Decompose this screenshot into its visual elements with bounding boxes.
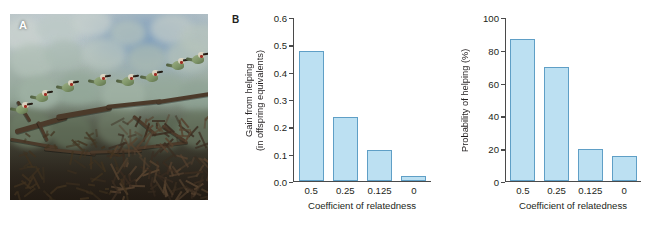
panel-b-right-chart: Probability of helping (%) 020406080100 …: [448, 0, 648, 229]
thorn: [179, 129, 191, 131]
x-axis-title: Coefficient of relatedness: [491, 200, 648, 211]
bar-slot: [329, 18, 361, 181]
bee-eater: [120, 74, 137, 87]
y-tick-mark: [501, 182, 505, 183]
y-tick-label: 0.4: [274, 67, 287, 78]
bee-eater: [170, 58, 187, 71]
y-tick-label: 0.6: [274, 13, 287, 24]
panel-a-label: A: [19, 19, 27, 31]
y-axis-title: Probability of helping (%): [460, 20, 471, 180]
y-tick-mark: [289, 18, 293, 19]
x-tick-label: 0.5: [295, 185, 327, 196]
x-tick-label: 0.125: [574, 185, 606, 196]
thorn: [27, 166, 35, 168]
plot-area: 020406080100 0.50.250.1250 Coefficient o…: [505, 18, 641, 182]
x-tick-label: 0: [398, 185, 430, 196]
bird-throat: [24, 105, 27, 108]
bee-eater: [60, 80, 77, 93]
foliage-blob: [128, 44, 166, 72]
x-tick-label: 0.125: [364, 185, 396, 196]
bee-eater: [190, 52, 207, 65]
y-tick-label: 0.0: [274, 177, 287, 188]
bar: [333, 117, 358, 181]
y-tick-label: 0.1: [274, 149, 287, 160]
panel-b-label: B: [232, 14, 239, 25]
bar: [510, 39, 535, 181]
bar-slot: [541, 18, 573, 181]
bar-slot: [507, 18, 539, 181]
bird-throat: [102, 77, 105, 80]
y-tick-mark: [289, 73, 293, 74]
y-tick-label: 100: [483, 13, 499, 24]
foliage-blob: [44, 40, 84, 70]
bee-eater: [14, 102, 31, 115]
panel-b-chart: B Gain from helping (in offspring equiva…: [232, 0, 442, 229]
bar: [544, 67, 569, 181]
thorn: [105, 188, 109, 190]
panel-a-photograph: A: [10, 14, 208, 200]
x-tick-labels: 0.50.250.1250: [294, 185, 431, 196]
bird-throat: [130, 77, 133, 80]
bar-slot: [295, 18, 327, 181]
bar-series: [294, 18, 431, 181]
y-axis-title: Gain from helping (in offspring equivale…: [244, 20, 265, 180]
bar-slot: [398, 18, 430, 181]
x-tick-label: 0.25: [541, 185, 573, 196]
y-tick-mark: [501, 18, 505, 19]
y-tick-mark: [501, 116, 505, 117]
bar: [578, 149, 603, 181]
y-tick-label: 80: [488, 45, 499, 56]
bar-slot: [364, 18, 396, 181]
bird-throat: [180, 61, 183, 64]
bar: [612, 156, 637, 181]
y-tick-mark: [289, 45, 293, 46]
bee-eater: [144, 70, 161, 83]
x-tick-label: 0.5: [507, 185, 539, 196]
y-tick-mark: [289, 155, 293, 156]
y-tick-label: 60: [488, 78, 499, 89]
y-tick-label: 0: [494, 177, 499, 188]
y-tick-mark: [501, 84, 505, 85]
y-tick-mark: [289, 100, 293, 101]
y-tick-label: 40: [488, 111, 499, 122]
bee-eater: [92, 74, 109, 87]
foliage-blob: [82, 38, 126, 70]
y-tick-label: 20: [488, 144, 499, 155]
thorn: [152, 120, 165, 122]
bar-slot: [574, 18, 606, 181]
y-tick-label: 0.5: [274, 40, 287, 51]
y-tick-mark: [289, 182, 293, 183]
bar-slot: [608, 18, 640, 181]
plot-area: 0.00.10.20.30.40.50.6 0.50.250.1250 Coef…: [293, 18, 431, 182]
x-axis-title: Coefficient of relatedness: [279, 200, 445, 211]
bee-eater: [34, 90, 51, 103]
bar: [299, 51, 324, 181]
bar: [367, 150, 392, 181]
bird-throat: [154, 73, 157, 76]
bar: [401, 176, 426, 181]
x-tick-label: 0: [608, 185, 640, 196]
x-tick-labels: 0.50.250.1250: [506, 185, 641, 196]
bird-throat: [200, 55, 203, 58]
y-tick-label: 0.2: [274, 122, 287, 133]
bird-throat: [44, 93, 47, 96]
y-tick-mark: [289, 127, 293, 128]
y-tick-mark: [501, 149, 505, 150]
bird-throat: [70, 83, 73, 86]
y-tick-mark: [501, 51, 505, 52]
bar-series: [506, 18, 641, 181]
x-tick-label: 0.25: [329, 185, 361, 196]
y-tick-label: 0.3: [274, 95, 287, 106]
